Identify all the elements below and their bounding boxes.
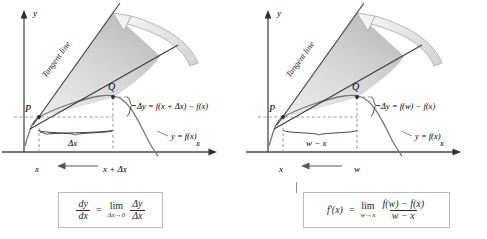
quotient-numerator: Δy <box>130 199 144 210</box>
quotient-numerator: f(w) − f(x) <box>380 199 426 210</box>
point-p-label: P <box>268 103 275 114</box>
delta-y-label: Δy = f(w) − f(x) <box>380 101 435 111</box>
point-q-label: Q <box>352 81 360 92</box>
formula-w: f′(x) = lim w→x f(w) − f(x) w − x <box>327 199 426 221</box>
derivative-numerator: dy <box>76 199 89 210</box>
derivative-prime-notation: f′(x) <box>327 205 343 215</box>
axis-label-y: y <box>276 8 281 18</box>
limit-direction-arrow <box>301 163 342 170</box>
tick-label-right: x + Δx <box>102 164 127 174</box>
tick-label-left: x <box>34 164 39 174</box>
point-q-marker <box>355 95 359 99</box>
delta-y-label: Δy = f(x + Δx) − f(x) <box>136 101 208 111</box>
y-axis <box>265 10 272 152</box>
derivative-denominator: dx <box>76 210 89 222</box>
limit-subscript: w→x <box>361 212 376 219</box>
formula-box-w: f′(x) = lim w→x f(w) − f(x) w − x <box>303 192 450 228</box>
curve-label: y = f(x) <box>414 131 441 141</box>
y-axis <box>21 10 28 152</box>
curve-label-leader <box>401 131 412 136</box>
tangent-line-label: Tangent line <box>284 39 317 79</box>
derivative-fraction: dy dx <box>76 199 89 221</box>
limit-subscript: Δx→0 <box>108 212 126 219</box>
point-q-label: Q <box>108 81 116 92</box>
w-minus-x-brace-label: w − x <box>306 138 327 148</box>
equals-sign: = <box>348 205 356 215</box>
x-axis <box>246 149 461 156</box>
diagram-svg-delta: y x P Q Tangent line Δy = f(x + Δx) − f(… <box>0 0 243 185</box>
figure-stage: y x P Q Tangent line Δy = f(x + Δx) − f(… <box>0 0 487 239</box>
w-minus-x-brace <box>283 130 357 135</box>
diagram-svg-w: y x P Q Tangent line Δy = f(w) − f(x) y … <box>244 0 487 185</box>
curve-label-leader <box>157 131 168 136</box>
delta-x-brace <box>39 130 113 135</box>
point-p-label: P <box>24 103 31 114</box>
tangent-line-label: Tangent line <box>40 39 73 79</box>
quotient-denominator: w − x <box>390 210 417 222</box>
delta-x-brace-label: Δx <box>67 138 77 148</box>
limit-operator: lim Δx→0 <box>108 201 126 219</box>
limit-word: lim <box>110 201 123 212</box>
difference-quotient: Δy Δx <box>130 199 144 221</box>
limit-direction-arrow <box>57 163 98 170</box>
point-p-marker <box>37 115 41 119</box>
formula-delta: dy dx = lim Δx→0 Δy Δx <box>76 199 144 221</box>
tick-label-left: x <box>278 164 283 174</box>
point-p-marker <box>281 115 285 119</box>
formula-box-delta: dy dx = lim Δx→0 Δy Δx <box>58 192 163 228</box>
point-q-marker <box>111 95 115 99</box>
limit-word: lim <box>361 201 374 212</box>
x-axis <box>2 149 217 156</box>
axis-label-y: y <box>32 8 37 18</box>
tick-label-right: w <box>354 164 360 174</box>
equals-sign: = <box>95 205 103 215</box>
curve-label: y = f(x) <box>170 131 197 141</box>
stray-tick-mark <box>296 182 297 193</box>
difference-quotient: f(w) − f(x) w − x <box>380 199 426 221</box>
limit-operator: lim w→x <box>361 201 376 219</box>
quotient-denominator: Δx <box>130 210 144 222</box>
